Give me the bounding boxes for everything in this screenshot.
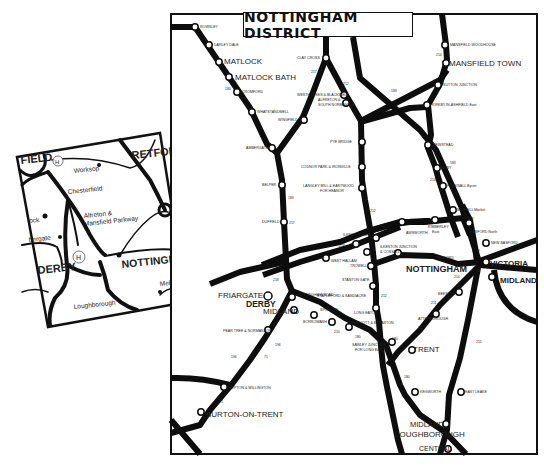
svg-text:HUCKNALL Byron: HUCKNALL Byron [447, 184, 476, 188]
svg-text:KIMBERLEY: KIMBERLEY [428, 225, 449, 229]
svg-text:217: 217 [289, 221, 295, 225]
svg-text:H: H [55, 159, 59, 165]
svg-text:212: 212 [468, 217, 474, 221]
svg-text:DUFFIELD: DUFFIELD [262, 220, 280, 224]
svg-text:MIDLAND: MIDLAND [410, 420, 444, 429]
svg-text:NEWSTEAD: NEWSTEAD [433, 143, 454, 147]
map-canvas: H H FIELD RETFOR Worksop Chesterfield Al… [0, 0, 544, 467]
svg-text:SOUTH NORMANTON: SOUTH NORMANTON [318, 103, 355, 107]
svg-text:TRENT: TRENT [413, 345, 440, 354]
svg-text:MATLOCK: MATLOCK [224, 57, 263, 66]
svg-text:WEST HALLAM: WEST HALLAM [331, 259, 357, 263]
svg-text:MATLOCK BATH: MATLOCK BATH [235, 73, 296, 82]
svg-text:CODNOR PARK & IRONVILLE: CODNOR PARK & IRONVILLE [301, 165, 351, 169]
svg-text:SPONDON: SPONDON [320, 308, 339, 312]
svg-text:183: 183 [391, 89, 397, 93]
svg-text:BASFORD North: BASFORD North [470, 230, 497, 234]
svg-text:ILKESTON JUNCTION: ILKESTON JUNCTION [380, 245, 417, 249]
svg-text:LINBY: LINBY [441, 166, 452, 170]
svg-text:CROMFORD: CROMFORD [242, 90, 264, 94]
svg-text:MIDLAND: MIDLAND [500, 276, 537, 285]
svg-text:BELPER: BELPER [262, 183, 277, 187]
svg-text:EAST LEAKE: EAST LEAKE [465, 390, 488, 394]
svg-text:DARLEY DALE: DARLEY DALE [214, 43, 239, 47]
svg-text:MIDLAND: MIDLAND [263, 307, 299, 316]
svg-text:DRAYCOTT & BREASTON: DRAYCOTT & BREASTON [350, 321, 394, 325]
svg-text:212: 212 [370, 209, 376, 213]
svg-text:LANGLEY MILL & EASTWOOD: LANGLEY MILL & EASTWOOD [303, 184, 354, 188]
svg-text:East: East [432, 230, 439, 234]
svg-text:FOR LONG EATON: FOR LONG EATON [355, 348, 387, 352]
svg-text:218: 218 [339, 244, 345, 248]
svg-text:MANSFIELD WOODHOUSE: MANSFIELD WOODHOUSE [450, 43, 497, 47]
svg-text:& COSSALL: & COSSALL [380, 250, 400, 254]
svg-text:AWSWORTH: AWSWORTH [406, 231, 428, 235]
svg-text:ALFRETON &: ALFRETON & [318, 98, 341, 102]
svg-text:PEAR TREE & NORMANTON: PEAR TREE & NORMANTON [223, 329, 272, 333]
svg-text:217: 217 [311, 70, 317, 74]
svg-text:TROWELL: TROWELL [350, 264, 367, 268]
svg-text:212: 212 [381, 294, 387, 298]
svg-text:VICTORIA: VICTORIA [490, 259, 528, 268]
svg-text:lock: lock [27, 216, 40, 224]
svg-text:211: 211 [418, 326, 424, 330]
svg-text:STANTON GATE: STANTON GATE [342, 278, 370, 282]
railway-map: H H FIELD RETFOR Worksop Chesterfield Al… [0, 0, 544, 467]
map-title: NOTTINGHAM DISTRICT [243, 12, 413, 37]
svg-text:71: 71 [219, 400, 223, 404]
svg-text:CLAY CROSS: CLAY CROSS [297, 56, 320, 60]
svg-text:214: 214 [454, 275, 460, 279]
svg-text:183: 183 [288, 196, 294, 200]
svg-text:214: 214 [430, 178, 436, 182]
svg-text:180: 180 [392, 337, 398, 341]
svg-text:218: 218 [273, 278, 279, 282]
svg-text:ILKESTON North: ILKESTON North [343, 233, 371, 237]
svg-text:SUTTON JUNCTION: SUTTON JUNCTION [443, 83, 477, 87]
svg-text:BEESTON: BEESTON [438, 292, 456, 296]
svg-text:MANSFIELD TOWN: MANSFIELD TOWN [449, 59, 521, 68]
svg-text:WINGFIELD: WINGFIELD [278, 118, 298, 122]
svg-text:CENTRAL: CENTRAL [419, 445, 452, 452]
svg-text:WHATSTANDWELL: WHATSTANDWELL [257, 110, 289, 114]
svg-text:REPTON & WILLINGTON: REPTON & WILLINGTON [229, 386, 271, 390]
inset-map: H H FIELD RETFOR Worksop Chesterfield Al… [17, 133, 193, 327]
svg-text:180: 180 [456, 284, 462, 288]
svg-text:H: H [76, 254, 81, 261]
svg-text:ATTENBOROUGH: ATTENBOROUGH [418, 317, 448, 321]
svg-text:RADFORD: RADFORD [436, 256, 454, 260]
svg-text:BORROWASH: BORROWASH [303, 320, 327, 324]
svg-text:218: 218 [474, 249, 480, 253]
svg-text:ROWSLEY: ROWSLEY [200, 25, 219, 29]
svg-text:SAWLEY JUNCTION: SAWLEY JUNCTION [352, 343, 386, 347]
svg-text:212: 212 [343, 82, 349, 86]
svg-text:214: 214 [436, 53, 442, 57]
svg-text:196: 196 [231, 355, 237, 359]
svg-text:196: 196 [275, 343, 281, 347]
svg-text:NOTTINGHAM: NOTTINGHAM [406, 264, 467, 274]
svg-text:PYE BRIDGE: PYE BRIDGE [330, 140, 353, 144]
svg-text:183: 183 [450, 161, 456, 165]
svg-text:LONG EATON: LONG EATON [354, 311, 378, 315]
svg-text:KIRKBY-IN-ASHFIELD East: KIRKBY-IN-ASHFIELD East [432, 103, 477, 107]
svg-text:FOR HEANOR: FOR HEANOR [320, 189, 344, 193]
main-map: MATLOCK MATLOCK BATH MANSFIELD TOWN NOTT… [171, 14, 537, 454]
svg-text:210: 210 [334, 330, 340, 334]
svg-text:BURTON-ON-TRENT: BURTON-ON-TRENT [206, 410, 284, 419]
svg-text:183: 183 [225, 87, 231, 91]
svg-text:NEW BASFORD: NEW BASFORD [491, 241, 518, 245]
svg-text:71: 71 [264, 355, 268, 359]
svg-text:WESTHOUSES & BLACKWELL: WESTHOUSES & BLACKWELL [297, 93, 349, 97]
svg-text:NOTTINGHAM ROAD: NOTTINGHAM ROAD [298, 293, 334, 297]
svg-text:180: 180 [404, 375, 410, 379]
svg-text:AMBERGATE: AMBERGATE [246, 146, 269, 150]
svg-text:LOUGHBOROUGH: LOUGHBOROUGH [395, 430, 465, 439]
svg-text:KEGWORTH: KEGWORTH [420, 390, 442, 394]
svg-text:BULWELL Market: BULWELL Market [457, 208, 485, 212]
svg-text:211: 211 [431, 301, 437, 305]
svg-text:215: 215 [476, 340, 482, 344]
svg-text:180: 180 [355, 335, 361, 339]
